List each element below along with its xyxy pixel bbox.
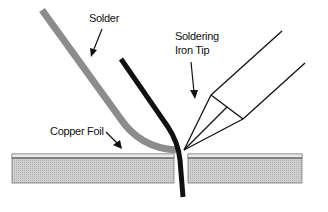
circuit-board-right (188, 154, 302, 183)
solder-arrow (90, 29, 102, 57)
copper-foil-arrow (106, 132, 122, 149)
solder-label: Solder (89, 12, 119, 24)
iron-tip-label-line1: Soldering (175, 30, 219, 42)
soldering-diagram (0, 0, 328, 212)
circuit-board-left (12, 154, 174, 183)
iron-tip-arrow (190, 62, 198, 99)
copper-foil-label: Copper Foil (50, 125, 104, 137)
iron-tip-label-line2: Iron Tip (175, 44, 209, 56)
